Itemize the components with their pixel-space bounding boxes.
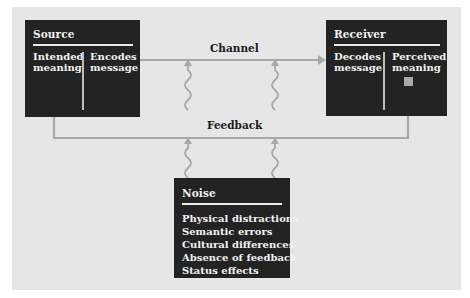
- noise-factor-item: Semantic errors: [182, 225, 299, 238]
- receiver-divider: [383, 52, 385, 110]
- channel-arrow: [140, 55, 326, 65]
- source-divider: [82, 52, 84, 110]
- receiver-title-rule: [334, 44, 440, 46]
- noise-wave-arrow-channel-left: [184, 59, 192, 110]
- noise-wave-arrow-feedback-right: [271, 137, 279, 178]
- receiver-title: Receiver: [334, 28, 386, 40]
- channel-label: Channel: [210, 42, 259, 54]
- source-encodes-message: Encodes message: [90, 51, 138, 73]
- receiver-decodes-message: Decodes message: [334, 51, 382, 73]
- noise-factor-list: Physical distractions Semantic errors Cu…: [182, 212, 299, 277]
- noise-title: Noise: [182, 187, 216, 199]
- receiver-box: Receiver Decodes message Perceived meani…: [326, 20, 447, 116]
- source-intended-meaning: Intended meaning: [33, 51, 84, 73]
- source-title: Source: [33, 28, 74, 40]
- noise-factor-item: Absence of feedback: [182, 251, 299, 264]
- noise-factor-item: Status effects: [182, 264, 299, 277]
- noise-wave-arrow-feedback-left: [184, 137, 192, 178]
- noise-title-rule: [182, 203, 282, 205]
- noise-factor-item: Physical distractions: [182, 212, 299, 225]
- feedback-label: Feedback: [207, 119, 262, 131]
- perceived-meaning-marker: [404, 77, 413, 86]
- source-box: Source Intended meaning Encodes message: [25, 20, 140, 117]
- noise-factor-item: Cultural differences: [182, 238, 299, 251]
- noise-wave-arrow-channel-right: [271, 59, 279, 110]
- source-title-rule: [33, 44, 133, 46]
- noise-box: Noise Physical distractions Semantic err…: [174, 178, 290, 278]
- receiver-perceived-meaning: Perceived meaning: [392, 51, 446, 73]
